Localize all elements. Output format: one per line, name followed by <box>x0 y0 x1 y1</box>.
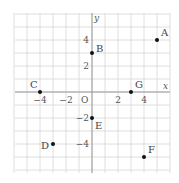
y-tick-label: 4 <box>83 35 89 45</box>
x-axis-label: x <box>163 81 168 91</box>
point-c-dot <box>38 90 42 94</box>
y-tick-label: −2 <box>76 113 89 123</box>
point-g-dot <box>129 90 133 94</box>
x-tick-label: −2 <box>59 95 72 105</box>
point-a-label: A <box>160 27 169 38</box>
point-b-dot <box>90 51 94 55</box>
point-d-dot <box>51 142 55 146</box>
x-tick-label: −4 <box>33 95 47 105</box>
point-d-label: D <box>41 140 49 151</box>
point-e-dot <box>90 116 94 120</box>
coordinate-plane: x y O −4−22442−2−4 ABCDEFG <box>0 0 179 183</box>
y-axis-label: y <box>93 13 100 23</box>
point-f-dot <box>142 155 146 159</box>
point-c-label: C <box>30 79 38 90</box>
point-f-label: F <box>148 144 155 155</box>
y-tick-label: −4 <box>76 139 90 149</box>
x-tick-label: 2 <box>115 95 121 105</box>
origin-label: O <box>81 95 88 105</box>
point-e-label: E <box>95 120 102 131</box>
point-g-label: G <box>135 79 143 90</box>
point-a-dot <box>155 38 159 42</box>
x-tick-label: 4 <box>141 95 147 105</box>
y-tick-label: 2 <box>83 61 89 71</box>
plotted-points: ABCDEFG <box>30 27 169 159</box>
point-b-label: B <box>96 43 103 54</box>
